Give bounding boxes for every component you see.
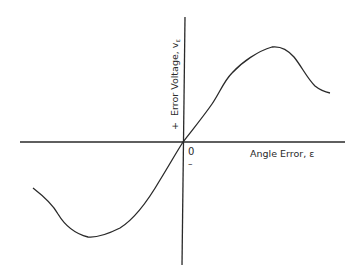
svg-text:+Error Voltage, vε: +Error Voltage, vε: [169, 39, 182, 130]
error-voltage-diagram: +Error Voltage, vε 0 – Angle Error, ε: [0, 0, 363, 279]
y-axis-label: +Error Voltage, vε: [169, 39, 182, 130]
y-plus-sign: +: [169, 122, 180, 130]
minus-sign: –: [188, 159, 193, 169]
origin-label: 0: [188, 146, 194, 157]
x-axis-label: Angle Error, ε: [250, 148, 314, 159]
